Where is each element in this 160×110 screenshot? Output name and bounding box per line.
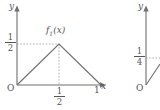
- y-axis-arrowhead: [143, 6, 148, 12]
- curve-label-argument: (x): [53, 25, 65, 35]
- y-tick-one-quarter-denominator: 4: [134, 58, 145, 67]
- x-tick-one: 1: [94, 86, 100, 95]
- y-tick-one-quarter-numerator: 1: [134, 47, 145, 56]
- y-tick-one-half-numerator: 1: [5, 33, 16, 42]
- origin-label: O: [136, 84, 143, 93]
- math-figure-pair: y x O 1 2 1 2 1 f1(x): [0, 0, 160, 110]
- chart-panel-left: y x O 1 2 1 2 1 f1(x): [0, 0, 112, 110]
- y-tick-one-half-denominator: 2: [5, 44, 16, 53]
- y-axis-arrowhead: [14, 6, 19, 12]
- rising-edge-curve: [146, 64, 160, 85]
- x-axis-label: x: [101, 82, 106, 91]
- y-tick-one-half: 1 2: [5, 33, 16, 53]
- origin-label: O: [7, 84, 14, 93]
- y-tick-one-quarter: 1 4: [134, 47, 145, 67]
- chart-panel-right: y O 1 4: [112, 0, 160, 110]
- curve-label: f1(x): [46, 26, 65, 37]
- y-axis-label: y: [9, 2, 14, 11]
- y-axis-label: y: [138, 2, 143, 11]
- x-tick-one-half-numerator: 1: [54, 87, 65, 96]
- x-tick-one-half-denominator: 2: [54, 98, 65, 107]
- x-tick-one-half: 1 2: [54, 87, 65, 107]
